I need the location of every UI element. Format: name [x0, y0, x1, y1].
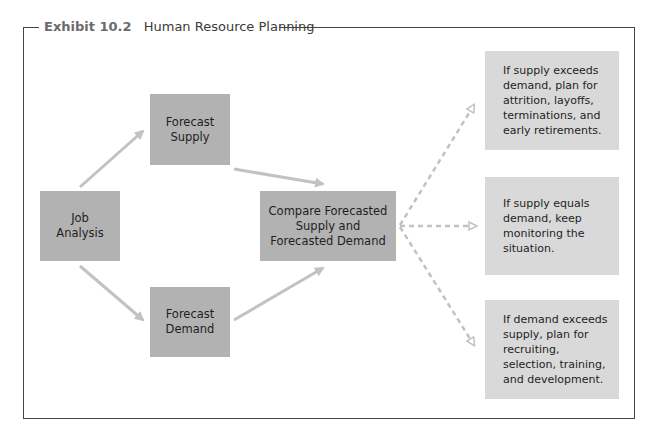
outcome-surplus-box: If supply exceeds demand, plan for attri…: [485, 51, 619, 150]
outcome-equal-box: If supply equals demand, keep monitoring…: [485, 177, 619, 275]
arrow-job-to-supply: [80, 131, 143, 187]
dashed-arrow-to-shortage: [400, 227, 474, 345]
dashed-arrow-to-surplus: [400, 105, 474, 225]
forecast-demand-box: Forecast Demand: [150, 287, 230, 357]
forecast-supply-label: Forecast Supply: [158, 115, 222, 145]
arrow-supply-to-compare: [234, 169, 323, 184]
outcome-surplus-text: If supply exceeds demand, plan for attri…: [503, 63, 609, 138]
outcome-shortage-text: If demand exceeds supply, plan for recru…: [503, 312, 609, 387]
job-analysis-label: Job Analysis: [50, 211, 110, 241]
outcome-equal-text: If supply equals demand, keep monitoring…: [503, 196, 609, 256]
job-analysis-box: Job Analysis: [40, 191, 120, 261]
forecast-demand-label: Forecast Demand: [158, 307, 222, 337]
compare-label: Compare Forecasted Supply and Forecasted…: [266, 204, 390, 249]
forecast-supply-box: Forecast Supply: [150, 94, 230, 165]
arrow-demand-to-compare: [234, 268, 323, 320]
arrow-job-to-demand: [80, 266, 143, 320]
compare-box: Compare Forecasted Supply and Forecasted…: [260, 191, 396, 261]
outcome-shortage-box: If demand exceeds supply, plan for recru…: [485, 300, 619, 399]
